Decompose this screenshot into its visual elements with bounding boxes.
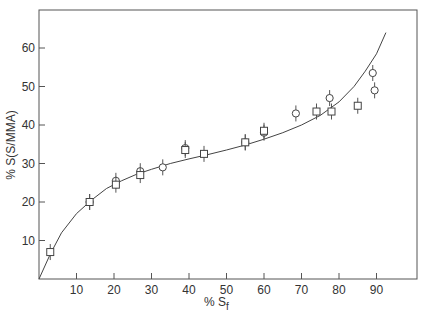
y-tick-label: 60 [22, 41, 36, 55]
square-marker [328, 108, 335, 115]
x-axis-title: % Sf [204, 295, 229, 312]
x-tick-label: 80 [332, 283, 346, 297]
square-marker [112, 181, 119, 188]
x-tick-label: 30 [145, 283, 159, 297]
x-tick-label: 60 [257, 283, 271, 297]
square-marker [86, 199, 93, 206]
x-tick-label: 70 [295, 283, 309, 297]
x-axis-ticks: 102030405060708090 [70, 273, 384, 297]
chart-canvas: 102030405060708090 102030405060 % Sf % S… [0, 0, 422, 319]
fitted-curve [39, 33, 386, 279]
square-marker [182, 147, 189, 154]
circle-marker [159, 164, 166, 171]
x-tick-label: 90 [370, 283, 384, 297]
circle-marker [326, 94, 333, 101]
circle-marker [292, 110, 299, 117]
y-tick-label: 30 [22, 157, 36, 171]
square-marker [313, 108, 320, 115]
square-marker [242, 139, 249, 146]
square-marker [354, 102, 361, 109]
circle-marker [369, 69, 376, 76]
plot-frame [39, 10, 417, 279]
y-tick-label: 40 [22, 118, 36, 132]
y-axis-ticks: 102030405060 [22, 41, 45, 248]
square-marker [47, 249, 54, 256]
x-tick-label: 10 [70, 283, 84, 297]
x-tick-label: 40 [182, 283, 196, 297]
y-tick-label: 10 [22, 234, 36, 248]
square-marker [137, 172, 144, 179]
y-axis-title: % S(S/MMA) [4, 110, 18, 179]
square-marker [261, 127, 268, 134]
x-tick-label: 20 [107, 283, 121, 297]
y-tick-label: 20 [22, 195, 36, 209]
circle-marker [371, 87, 378, 94]
data-markers [47, 65, 378, 260]
y-tick-label: 50 [22, 80, 36, 94]
square-marker [201, 150, 208, 157]
